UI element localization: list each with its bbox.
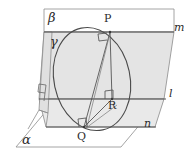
label-line-m: m — [174, 22, 184, 33]
point-Q-dot — [83, 126, 85, 128]
label-line-l: l — [169, 88, 173, 99]
geometry-canvas — [0, 0, 184, 154]
plane-upper-region — [39, 32, 174, 99]
geometry-figure: β γ α m l n P Q R — [0, 0, 184, 154]
label-point-R: R — [108, 100, 116, 111]
point-P-dot — [109, 31, 111, 33]
label-point-P: P — [104, 13, 111, 24]
label-plane-beta: β — [48, 11, 56, 24]
label-line-n: n — [144, 118, 151, 129]
label-plane-alpha: α — [22, 133, 31, 146]
label-point-Q: Q — [77, 131, 86, 142]
label-plane-gamma: γ — [50, 35, 58, 48]
